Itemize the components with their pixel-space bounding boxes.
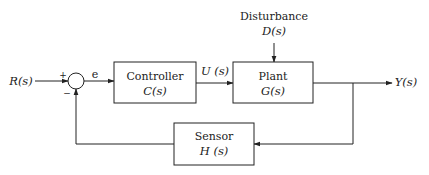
sensor-transfer: H (s) [199, 144, 229, 158]
plant-block: Plant G(s) [233, 62, 313, 103]
plant-transfer: G(s) [261, 84, 285, 98]
disturbance-transfer: D(s) [261, 24, 286, 38]
control-signal-label: U (s) [201, 64, 229, 78]
controller-transfer: C(s) [143, 84, 167, 98]
minus-sign: − [63, 88, 71, 98]
disturbance-title: Disturbance [240, 10, 308, 23]
plus-sign: + [59, 70, 67, 80]
controller-title: Controller [126, 70, 184, 83]
plant-title: Plant [259, 70, 289, 83]
input-label: R(s) [8, 74, 33, 88]
output-label: Y(s) [395, 75, 417, 89]
summing-junction [68, 73, 84, 89]
block-diagram: R(s) + − e Controller C(s) U (s) Disturb… [0, 0, 429, 175]
sensor-title: Sensor [195, 130, 234, 143]
controller-block: Controller C(s) [114, 62, 196, 103]
error-label: e [92, 68, 99, 81]
sensor-block: Sensor H (s) [174, 123, 254, 165]
